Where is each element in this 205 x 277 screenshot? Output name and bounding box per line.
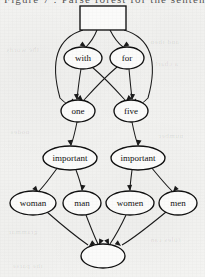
node-five[interactable]: five: [114, 100, 148, 122]
edge-men-to-sink: [115, 212, 166, 248]
edge-man-to-sink: [86, 215, 104, 246]
node-men[interactable]: men: [159, 191, 197, 215]
node-label-man: man: [74, 198, 90, 208]
node-important_r[interactable]: important: [111, 146, 165, 170]
node-woman[interactable]: woman: [10, 191, 56, 215]
node-man[interactable]: man: [63, 191, 101, 215]
node-root[interactable]: [80, 6, 126, 30]
node-label-men: men: [170, 198, 186, 208]
edge-important_r-to-women: [127, 170, 132, 191]
node-shape-ellipse: [81, 244, 125, 268]
parse-forest-diagram: withforonefiveimportantimportantwomanman…: [0, 0, 205, 277]
edge-important_l-to-man: [76, 170, 86, 191]
node-label-one: one: [72, 106, 85, 116]
edges-group: [32, 30, 179, 248]
node-label-important_r: important: [121, 153, 156, 163]
nodes-group: withforonefiveimportantimportantwomanman…: [10, 6, 197, 268]
edge-important_l-to-woman: [32, 167, 58, 194]
node-sink[interactable]: [81, 244, 125, 268]
node-label-for: for: [122, 53, 133, 63]
node-label-with: with: [75, 53, 92, 63]
edge-woman-to-sink: [47, 212, 95, 248]
node-shape-rect: [80, 6, 126, 30]
edge-root-to-with: [80, 30, 97, 49]
edge-important_r-to-men: [151, 167, 179, 194]
edge-women-to-sink: [104, 215, 126, 246]
edge-for-to-five: [129, 69, 135, 100]
node-label-important_l: important: [53, 153, 88, 163]
node-for[interactable]: for: [110, 47, 144, 69]
node-label-woman: woman: [20, 198, 47, 208]
edge-root-to-for: [110, 30, 129, 49]
node-with[interactable]: with: [64, 47, 102, 69]
node-label-five: five: [124, 106, 138, 116]
node-label-women: women: [117, 198, 144, 208]
edge-one-to-important_l: [67, 122, 77, 146]
node-one[interactable]: one: [61, 100, 95, 122]
node-important_l[interactable]: important: [43, 146, 97, 170]
edge-five-to-important_r: [132, 122, 142, 146]
node-women[interactable]: women: [106, 191, 154, 215]
